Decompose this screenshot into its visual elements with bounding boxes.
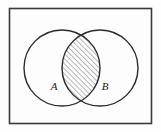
set-a-label: A — [50, 80, 58, 92]
venn-diagram-figure: A B — [0, 0, 161, 132]
set-b-label: B — [102, 80, 109, 92]
venn-diagram-canvas: A B — [0, 0, 161, 132]
